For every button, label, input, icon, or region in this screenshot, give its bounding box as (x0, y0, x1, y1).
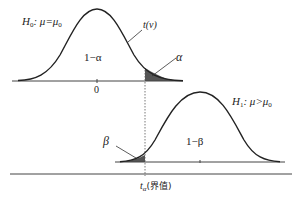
null-distribution: H0: μ=μ0 t(ν) 1−α α 0 (12, 9, 183, 95)
alpha-label: α (176, 50, 183, 64)
power-diagram: H0: μ=μ0 t(ν) 1−α α 0 H1: μ>μ0 1−β β tα(… (0, 0, 303, 197)
h0-label: H0: μ=μ0 (21, 15, 62, 29)
h1-label: H1: μ>μ0 (231, 95, 272, 109)
one-minus-beta-label: 1−β (186, 135, 204, 147)
one-minus-alpha-label: 1−α (84, 51, 102, 63)
t-nu-leader (128, 30, 142, 42)
alpha-leader (152, 58, 176, 76)
beta-label: β (102, 134, 109, 148)
t-nu-label: t(ν) (143, 19, 158, 31)
critical-value-label: tα(界值) (140, 180, 172, 193)
beta-leader (116, 146, 136, 158)
alt-distribution: H1: μ>μ0 1−β β (102, 92, 285, 163)
zero-label: 0 (94, 84, 99, 95)
